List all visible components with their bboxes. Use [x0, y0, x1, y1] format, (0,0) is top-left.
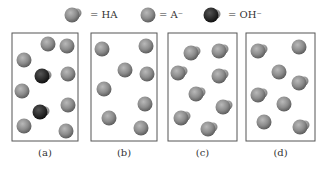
ha-particle [65, 8, 82, 23]
a-minus-particle [277, 97, 292, 112]
panel-label: (b) [117, 147, 131, 158]
a-minus-particle [17, 119, 32, 134]
a-minus-particle [134, 121, 149, 136]
a-minus-particle [102, 111, 117, 126]
legend-label-ha: = HA [90, 9, 118, 20]
panel-b: (b) [91, 33, 157, 158]
oh-minus-ion-icon [204, 8, 221, 23]
a-minus-particle [272, 65, 287, 80]
a-minus-particle [257, 115, 272, 130]
a-minus-particle [59, 124, 74, 139]
a-minus-particle [140, 67, 155, 82]
panel-label: (c) [196, 147, 210, 158]
oh-minus-particle [204, 8, 221, 23]
a-minus-particle [41, 37, 56, 52]
acid-base-particle-diagram: = HA = A⁻ = OH⁻ (a)(b)(c)(d) [0, 0, 326, 170]
panel-label: (d) [273, 147, 287, 158]
a-minus-particle [61, 67, 76, 82]
a-minus-particle [97, 82, 112, 97]
a-minus-particle [15, 84, 30, 99]
a-minus-ion-icon [141, 8, 156, 23]
a-minus-particle [118, 63, 133, 78]
legend-label-oh-minus: = OH⁻ [228, 9, 262, 20]
a-minus-particle [138, 97, 153, 112]
a-minus-particle [292, 40, 307, 55]
a-minus-particle [95, 42, 110, 57]
panel-d: (d) [246, 33, 315, 158]
a-minus-particle [60, 39, 75, 54]
a-minus-particle [141, 8, 156, 23]
panel-a: (a) [12, 33, 78, 158]
panel-label: (a) [38, 147, 52, 158]
a-minus-particle [61, 98, 76, 113]
panel-c: (c) [168, 33, 237, 158]
ha-molecule-icon [65, 8, 82, 23]
legend-label-a-minus: = A⁻ [159, 9, 183, 20]
a-minus-particle [17, 53, 32, 68]
a-minus-particle [139, 39, 154, 54]
legend: = HA = A⁻ = OH⁻ [65, 8, 262, 23]
